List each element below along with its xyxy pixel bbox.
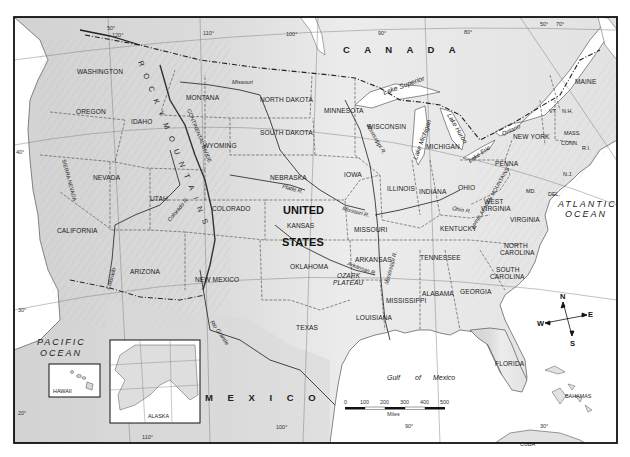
coord-30: 30°	[18, 307, 26, 313]
coord-110-top: 110°	[203, 30, 214, 36]
label-illinois: ILLINOIS	[387, 185, 415, 192]
label-virginia: VIRGINIA	[510, 216, 540, 223]
alaska-inset: ALASKA	[110, 340, 200, 423]
coord-100-bottom: 100°	[276, 424, 287, 430]
label-nebraska: NEBRASKA	[270, 174, 307, 181]
label-del: DEL.	[548, 191, 560, 197]
label-new-york: NEW YORK	[513, 133, 550, 140]
label-north-dakota: NORTH DAKOTA	[260, 96, 313, 103]
coord-110-bottom: 110°	[142, 434, 153, 440]
label-ohio: OHIO	[458, 184, 475, 191]
label-ozark-2: PLATEAU	[333, 279, 363, 286]
coord-50-w: 50°	[107, 25, 115, 31]
label-atlantic-1: ATLANTIC	[557, 199, 617, 209]
label-mississippi: MISSISSIPPI	[386, 297, 426, 304]
label-oklahoma: OKLAHOMA	[290, 263, 329, 270]
compass-n: N	[560, 292, 565, 301]
label-atlantic-2: OCEAN	[565, 209, 607, 219]
scale-tick-0: 0	[344, 399, 347, 405]
label-mexico: M E X I C O	[205, 392, 322, 403]
label-ozark-1: OZARK	[337, 272, 361, 279]
label-mass: MASS.	[564, 130, 581, 136]
label-north-carolina-1: NORTH	[504, 242, 528, 249]
scale-tick-500: 500	[440, 399, 449, 405]
label-vt: VT.	[549, 108, 557, 114]
label-arkansas: ARKANSAS	[355, 256, 392, 263]
coord-90-bottom: 90°	[405, 423, 413, 429]
us-physical-map: ALASKA HAWAII C A N A D A M E X I C O UN…	[0, 0, 630, 457]
compass-e: E	[588, 310, 593, 319]
label-cuba: CUBA	[520, 441, 535, 447]
label-missouri: MISSOURI	[354, 226, 387, 233]
label-idaho: IDAHO	[131, 118, 152, 125]
label-michigan: MICHIGAN	[426, 143, 460, 150]
label-georgia: GEORGIA	[460, 288, 492, 295]
label-nh: N.H.	[562, 108, 573, 114]
label-oregon: OREGON	[76, 108, 106, 115]
scale-tick-100: 100	[360, 399, 369, 405]
label-pacific-1: PACIFIC	[37, 337, 86, 347]
label-alabama: ALABAMA	[422, 290, 454, 297]
scale-tick-200: 200	[380, 399, 389, 405]
label-tennessee: TENNESSEE	[420, 254, 461, 261]
label-minnesota: MINNESOTA	[324, 107, 364, 114]
label-missouri-north: Missouri	[232, 79, 254, 85]
label-ri: R.I.	[582, 145, 590, 151]
label-canada: C A N A D A	[343, 44, 462, 55]
label-montana: MONTANA	[186, 94, 220, 101]
label-iowa: IOWA	[344, 171, 362, 178]
coord-20: 20°	[18, 410, 26, 416]
label-kansas: KANSAS	[287, 222, 315, 229]
coord-80: 80°	[464, 29, 472, 35]
coord-120: 120°	[112, 32, 123, 38]
label-south-carolina-2: CAROLINA	[490, 273, 525, 280]
label-penna: PENNA	[495, 160, 519, 167]
compass-w: W	[537, 319, 545, 328]
scale-tick-400: 400	[420, 399, 429, 405]
coord-50-e: 50°	[540, 21, 548, 27]
scale-tick-300: 300	[400, 399, 409, 405]
scale-unit: Miles	[387, 411, 400, 417]
label-florida: FLORIDA	[495, 360, 525, 367]
label-south-carolina-1: SOUTH	[496, 266, 520, 273]
label-south-dakota: SOUTH DAKOTA	[260, 129, 313, 136]
label-gulf-3: Mexico	[433, 374, 455, 381]
label-nj: N.J.	[563, 171, 573, 177]
label-california: CALIFORNIA	[57, 227, 98, 234]
coord-30-e: 30°	[540, 423, 548, 429]
label-pacific-2: OCEAN	[40, 348, 82, 358]
coord-90-top: 90°	[378, 30, 386, 36]
hawaii-inset: HAWAII	[49, 364, 100, 397]
label-washington: WASHINGTON	[77, 68, 123, 75]
label-united: UNITED	[283, 204, 324, 216]
label-md: MD.	[526, 188, 536, 194]
label-nevada: NEVADA	[93, 174, 121, 181]
label-louisiana: LOUISIANA	[356, 314, 393, 321]
label-hawaii: HAWAII	[53, 388, 72, 394]
label-new-mexico: NEW MEXICO	[195, 276, 239, 283]
coord-70: 70°	[556, 21, 564, 27]
label-bahamas: BAHAMAS	[565, 393, 592, 399]
coord-40-w: 40°	[16, 149, 24, 155]
label-colorado: COLORADO	[212, 205, 251, 212]
label-utah: UTAH	[150, 195, 168, 202]
compass-s: S	[570, 339, 575, 348]
label-arizona: ARIZONA	[130, 268, 161, 275]
coord-100-top: 100°	[286, 31, 297, 37]
label-alaska: ALASKA	[148, 413, 169, 419]
label-indiana: INDIANA	[419, 188, 447, 195]
label-gulf-1: Gulf	[387, 374, 401, 381]
label-conn: CONN.	[561, 140, 578, 146]
label-maine: MAINE	[575, 78, 597, 85]
label-texas: TEXAS	[296, 324, 319, 331]
label-north-carolina-2: CAROLINA	[500, 249, 535, 256]
label-states: STATES	[282, 236, 324, 248]
